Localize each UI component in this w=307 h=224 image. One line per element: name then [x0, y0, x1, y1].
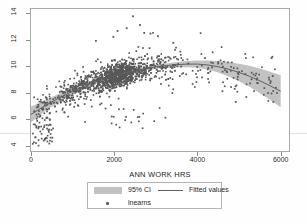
legend-label-fitted: Fitted values: [189, 186, 229, 193]
y-tick-label: 14: [10, 2, 17, 20]
y-tick-mark: [26, 146, 30, 147]
x-tick-label: 6000: [261, 156, 301, 163]
y-tick-mark: [26, 119, 30, 120]
x-tick-label: 2000: [94, 156, 134, 163]
scatter-plot-svg: [31, 9, 289, 151]
y-tick-label: 8: [10, 82, 17, 100]
y-tick-label: 6: [10, 109, 17, 127]
ci-band-swatch-icon: [94, 187, 122, 194]
legend-label-lnearns: lnearns: [128, 199, 151, 206]
y-tick-mark: [26, 40, 30, 41]
point-marker-swatch-icon: [106, 202, 109, 205]
plot-clip: [31, 9, 289, 151]
y-tick-mark: [26, 66, 30, 67]
legend-row-2: lnearns: [88, 197, 221, 210]
legend-row-1: 95% CI Fitted values: [88, 184, 221, 197]
figure-canvas: 468101214 0200040006000 ANN WORK HRS 95%…: [0, 0, 307, 224]
y-tick-label: 4: [10, 135, 17, 153]
legend-label-ci: 95% CI: [128, 186, 151, 193]
fitted-line-swatch-icon: [158, 190, 183, 191]
x-tick-label: 4000: [177, 156, 217, 163]
y-tick-label: 10: [10, 56, 17, 74]
plot-area: [30, 8, 290, 152]
x-axis-title: ANN WORK HRS: [30, 170, 290, 179]
y-tick-mark: [26, 13, 30, 14]
y-tick-mark: [26, 93, 30, 94]
y-tick-label: 12: [10, 29, 17, 47]
x-tick-label: 0: [11, 156, 51, 163]
legend: 95% CI Fitted values lnearns: [87, 182, 222, 209]
